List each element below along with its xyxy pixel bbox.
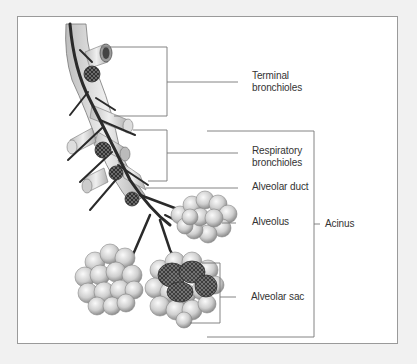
label-line: bronchioles bbox=[252, 157, 302, 169]
label-respiratory-bronchioles: Respiratory bronchioles bbox=[252, 145, 302, 169]
label-line: Respiratory bbox=[252, 145, 302, 157]
label-line: Terminal bbox=[252, 70, 302, 82]
label-terminal-bronchioles: Terminal bronchioles bbox=[252, 70, 302, 94]
capillary-net bbox=[84, 66, 100, 82]
capillary-net bbox=[95, 142, 111, 158]
alveolar-sac-left bbox=[75, 244, 143, 315]
capillary-net bbox=[125, 192, 139, 206]
bronchiole-illustration bbox=[0, 0, 417, 364]
label-acinus: Acinus bbox=[325, 218, 354, 230]
label-alveolar-duct: Alveolar duct bbox=[252, 181, 309, 193]
label-alveolar-sac: Alveolar sac bbox=[251, 291, 304, 303]
alveolus-cluster bbox=[171, 191, 237, 243]
label-alveolus: Alveolus bbox=[252, 216, 289, 228]
capillary-net bbox=[109, 166, 123, 180]
label-line: bronchioles bbox=[252, 82, 302, 94]
bronchiole-trunk bbox=[66, 24, 146, 205]
